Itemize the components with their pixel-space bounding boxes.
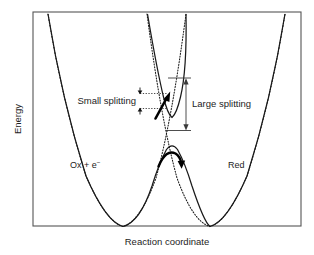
energy-diagram-svg: Small splitting Large splitting Ox + e− … bbox=[0, 0, 314, 255]
state-label-oxidized: Ox + e− bbox=[70, 159, 101, 170]
plot-frame bbox=[33, 12, 301, 226]
figure-root: Small splitting Large splitting Ox + e− … bbox=[0, 0, 314, 255]
x-axis-label: Reaction coordinate bbox=[125, 236, 210, 247]
large-splitting-label: Large splitting bbox=[192, 98, 251, 109]
state-label-reduced: Red bbox=[228, 160, 245, 170]
y-axis-label: Energy bbox=[12, 104, 23, 134]
state-label-oxidized-text: Ox + e bbox=[70, 160, 97, 170]
small-splitting-label: Small splitting bbox=[77, 95, 136, 106]
state-label-oxidized-superscript: − bbox=[97, 159, 101, 166]
